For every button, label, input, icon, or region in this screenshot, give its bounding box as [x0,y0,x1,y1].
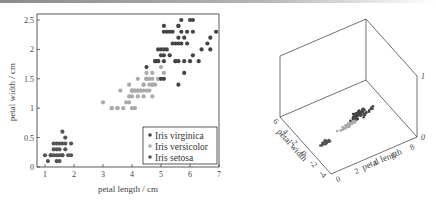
svg-text:1.5: 1.5 [24,75,34,84]
svg-text:2: 2 [353,166,360,176]
legend-label-versicolor: Iris versicolor [155,142,209,152]
y-axis-label: petal width / cm [7,63,17,121]
svg-text:2: 2 [72,170,76,179]
legend-marker-versicolor [148,144,152,148]
svg-text:2: 2 [290,138,299,147]
svg-text:0: 0 [299,149,308,158]
svg-text:8: 8 [408,142,415,152]
3d-box [280,19,417,174]
legend: Iris virginica Iris versicolor Iris seto… [143,127,217,164]
legend-label-virginica: Iris virginica [155,131,204,141]
svg-text:2.5: 2.5 [24,16,34,25]
svg-text:5: 5 [159,170,163,179]
svg-text:-2: -2 [308,158,319,169]
svg-text:4: 4 [371,158,378,168]
svg-text:6: 6 [271,117,280,126]
svg-text:7: 7 [217,170,221,179]
svg-text:-4: -4 [317,169,328,180]
3d-data-points [319,105,374,147]
svg-text:1: 1 [421,72,425,81]
svg-text:6: 6 [390,150,397,160]
3d-axis-ticks: 024686420-2-401 [271,72,425,184]
svg-text:0: 0 [421,133,425,142]
3d-x-axis-label: petal length [360,146,403,172]
svg-text:1: 1 [43,170,47,179]
svg-text:6: 6 [188,170,192,179]
x-axis-label: petal length / cm [98,184,158,194]
svg-text:3: 3 [101,170,105,179]
svg-text:4: 4 [281,127,290,136]
svg-text:1: 1 [30,104,34,113]
legend-marker-virginica [148,133,152,137]
svg-text:0: 0 [334,174,341,184]
svg-text:0: 0 [30,163,34,172]
legend-marker-setosa [148,155,152,159]
3d-y-axis-label: petal width [275,127,310,164]
svg-text:2: 2 [30,45,34,54]
svg-text:0.5: 0.5 [24,134,34,143]
scatter-plot-2d: 1234567 00.511.522.5 petal length / cm p… [0,0,236,200]
svg-text:4: 4 [130,170,134,179]
legend-label-setosa: Iris setosa [155,153,194,163]
